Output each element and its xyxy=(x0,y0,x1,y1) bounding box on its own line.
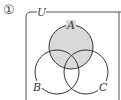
set-a-label: A xyxy=(66,19,75,32)
venn-diagram: U A B C xyxy=(0,0,121,100)
set-b-label: B xyxy=(32,81,41,94)
set-c-label: C xyxy=(99,81,108,94)
universe-label: U xyxy=(37,6,47,19)
